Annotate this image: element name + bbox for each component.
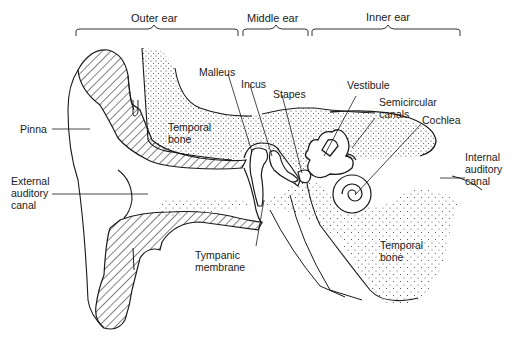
- cochlea-spiral: [333, 175, 371, 213]
- label-external-auditory-canal: External auditory canal: [11, 175, 50, 211]
- section-label-inner-ear: Inner ear: [366, 11, 410, 23]
- label-tympanic-membrane: Tympanic membrane: [195, 249, 245, 273]
- label-malleus: Malleus: [199, 66, 235, 78]
- ear-anatomy-diagram: Outer ear Middle ear Inner ear Pinna Ext…: [0, 0, 513, 340]
- label-stapes: Stapes: [273, 88, 306, 100]
- label-incus: Incus: [241, 78, 266, 90]
- inner-ear-brace: [312, 25, 460, 36]
- section-label-outer-ear: Outer ear: [131, 12, 177, 24]
- pinna-outline: [68, 70, 104, 328]
- middle-ear-brace: [243, 25, 308, 36]
- diagram-drawing: [0, 0, 513, 340]
- label-internal-auditory-canal: Internal auditory canal: [465, 151, 502, 187]
- section-braces: [76, 25, 460, 36]
- label-vestibule: Vestibule: [347, 79, 390, 91]
- label-temporal-bone-lower: Temporal bone: [380, 239, 423, 263]
- section-label-middle-ear: Middle ear: [247, 12, 298, 24]
- label-cochlea: Cochlea: [422, 114, 461, 126]
- malleus-shape: [250, 148, 268, 206]
- label-temporal-bone-upper: Temporal bone: [168, 121, 211, 145]
- label-pinna: Pinna: [20, 123, 47, 135]
- outer-ear-brace: [76, 25, 238, 36]
